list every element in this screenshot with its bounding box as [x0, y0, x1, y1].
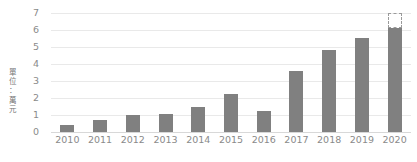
bar-slot: [346, 13, 379, 132]
x-tick-label-2011: 2011: [84, 134, 117, 145]
y-tick-label: 3: [23, 75, 39, 86]
x-tick-label-2018: 2018: [313, 134, 346, 145]
x-tick-label-2016: 2016: [247, 134, 280, 145]
bar-2014: [191, 107, 205, 133]
x-tick-label-2010: 2010: [51, 134, 84, 145]
bars-group: [51, 13, 411, 132]
y-tick-label: 0: [23, 126, 39, 137]
bar-2010: [60, 125, 74, 132]
bar-2011: [93, 120, 107, 132]
y-tick-label: 2: [23, 92, 39, 103]
y-axis-unit-label: 單 位 ： 萬 元: [4, 68, 20, 114]
x-tick-label-2020: 2020: [378, 134, 411, 145]
x-tick-label-2012: 2012: [116, 134, 149, 145]
bar-slot: [247, 13, 280, 132]
bar-slot: [182, 13, 215, 132]
bar-slot: [116, 13, 149, 132]
bar-chart: 單 位 ： 萬 元 01234567 201020112012201320142…: [0, 0, 417, 162]
bar-2020: [388, 28, 402, 132]
x-tick-label-2013: 2013: [149, 134, 182, 145]
bar-slot: [378, 13, 411, 132]
gridline-0: [51, 132, 411, 133]
y-tick-label: 1: [23, 109, 39, 120]
bar-slot: [51, 13, 84, 132]
bar-projection-2020: [388, 13, 402, 28]
y-tick-label: 4: [23, 58, 39, 69]
bar-2018: [322, 50, 336, 132]
bar-2017: [289, 71, 303, 132]
y-tick-label: 6: [23, 24, 39, 35]
y-tick-label: 7: [23, 7, 39, 18]
bar-slot: [280, 13, 313, 132]
bar-2013: [159, 114, 173, 132]
x-tick-label-2014: 2014: [182, 134, 215, 145]
x-tick-label-2019: 2019: [346, 134, 379, 145]
x-tick-label-2017: 2017: [280, 134, 313, 145]
bar-2015: [224, 94, 238, 132]
y-tick-label: 5: [23, 41, 39, 52]
bar-slot: [313, 13, 346, 132]
bar-2012: [126, 115, 140, 132]
x-tick-label-2015: 2015: [215, 134, 248, 145]
bar-slot: [84, 13, 117, 132]
bar-slot: [149, 13, 182, 132]
x-axis-labels: 2010201120122013201420152016201720182019…: [51, 134, 411, 150]
bar-slot: [215, 13, 248, 132]
bar-2016: [257, 111, 271, 132]
bar-2019: [355, 38, 369, 132]
